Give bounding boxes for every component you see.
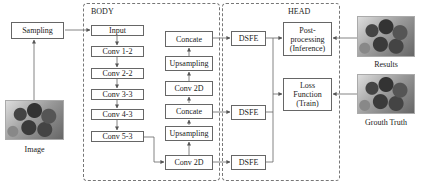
postprocessing-line3: (Inference) — [290, 44, 326, 53]
upsampling-bottom-node: Upsampling — [165, 126, 213, 141]
loss-function-node: Loss Function (Train) — [283, 78, 332, 111]
conv2d-mid-node: Conv 2D — [165, 81, 213, 96]
sampling-node: Sampling — [11, 22, 64, 39]
loss-line2: Function — [293, 90, 321, 99]
input-node: Input — [91, 25, 144, 36]
postprocessing-line2: processing — [290, 35, 324, 44]
ground-truth-caption: Grouth Truth — [348, 118, 421, 127]
loss-line3: (Train) — [296, 99, 318, 108]
upsampling-top-node: Upsampling — [165, 56, 213, 71]
postprocessing-line1: Post- — [299, 26, 315, 35]
conv2-2-node: Conv 2-2 — [91, 68, 144, 79]
input-image — [5, 100, 64, 140]
conv3-3-node: Conv 3-3 — [91, 89, 144, 100]
concate-top-node: Concate — [165, 31, 213, 47]
conv4-3-node: Conv 4-3 — [91, 109, 144, 120]
ground-truth-image — [357, 74, 415, 114]
input-image-caption: Image — [5, 145, 64, 154]
dsfe-top-node: DSFE — [231, 31, 266, 46]
postprocessing-node: Post- processing (Inference) — [283, 22, 332, 56]
concate-mid-node: Concate — [165, 104, 213, 119]
conv2d-bottom-node: Conv 2D — [165, 155, 213, 170]
conv1-2-node: Conv 1-2 — [91, 46, 144, 57]
dsfe-bottom-node: DSFE — [231, 155, 266, 170]
loss-line1: Loss — [300, 81, 315, 90]
head-label: HEAD — [288, 7, 310, 16]
results-image — [357, 16, 415, 57]
dsfe-mid-node: DSFE — [231, 105, 266, 120]
results-caption: Results — [352, 60, 420, 69]
conv5-3-node: Conv 5-3 — [91, 131, 144, 142]
body-label: BODY — [91, 7, 114, 16]
